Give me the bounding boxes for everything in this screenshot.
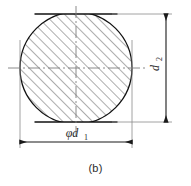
dimension-label-d2-group: d 2 xyxy=(148,57,164,71)
figure-caption: (b) xyxy=(0,162,191,174)
figure-container: d 2 φd 1 (b) xyxy=(0,0,191,186)
dimension-label-d1-subscript: 1 xyxy=(84,133,88,142)
dimension-label-d2: d xyxy=(148,64,162,71)
dimension-label-d2-subscript: 2 xyxy=(155,57,164,61)
cross-section-drawing: d 2 φd 1 xyxy=(0,0,191,186)
dimension-label-d1-group: φd 1 xyxy=(66,126,88,142)
dimension-label-d1: φd xyxy=(66,126,80,140)
